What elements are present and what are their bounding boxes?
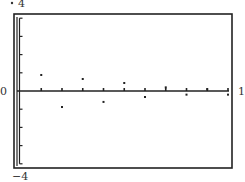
- scatter-chart: 4 0 1 −4: [0, 0, 245, 182]
- data-point: [206, 88, 208, 90]
- x-min-label: 0: [0, 85, 7, 98]
- data-point: [227, 94, 229, 96]
- data-point: [144, 96, 146, 98]
- data-point: [165, 86, 167, 88]
- x-max-label: 1: [238, 85, 245, 98]
- y-max-label: 4: [18, 0, 25, 10]
- y-min-label: −4: [12, 170, 28, 182]
- data-point: [103, 101, 105, 103]
- data-point: [123, 82, 125, 84]
- data-point: [82, 78, 84, 80]
- data-point: [61, 106, 63, 108]
- data-point: [186, 94, 188, 96]
- data-point: [40, 74, 42, 76]
- top-marker-dot: [11, 2, 13, 4]
